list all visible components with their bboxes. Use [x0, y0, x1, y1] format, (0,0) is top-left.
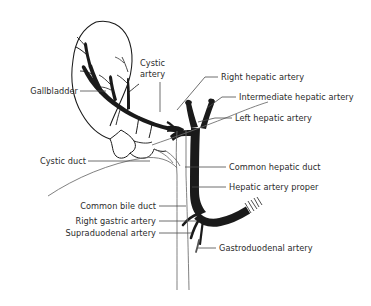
leader-left-hepatic-artery-angled [198, 118, 215, 122]
label-cystic-duct: Cystic duct [20, 156, 86, 166]
label-cystic-artery: Cystic artery [140, 58, 174, 79]
leader-lines [0, 0, 371, 306]
label-intermediate-hepatic-artery: Intermediate hepatic artery [239, 92, 354, 102]
leader-intermediate-hepatic-artery-angled [207, 97, 222, 108]
label-right-hepatic-artery: Right hepatic artery [221, 72, 304, 82]
label-gallbladder: Gallbladder [8, 86, 78, 96]
label-cystic-artery-line1: Cystic [140, 58, 165, 68]
label-supraduodenal-artery: Supraduodenal artery [34, 228, 156, 238]
label-left-hepatic-artery: Left hepatic artery [235, 113, 312, 123]
anatomy-figure: Gallbladder Cystic artery Right hepatic … [0, 0, 371, 306]
label-gastroduodenal-artery: Gastroduodenal artery [219, 243, 313, 253]
label-right-gastric-artery: Right gastric artery [44, 216, 156, 226]
label-hepatic-artery-proper: Hepatic artery proper [229, 182, 319, 192]
label-cystic-artery-line2: artery [140, 69, 165, 79]
label-common-bile-duct: Common bile duct [50, 201, 156, 211]
label-common-hepatic-duct: Common hepatic duct [229, 162, 321, 172]
leader-right-hepatic-artery-angled [177, 77, 205, 110]
